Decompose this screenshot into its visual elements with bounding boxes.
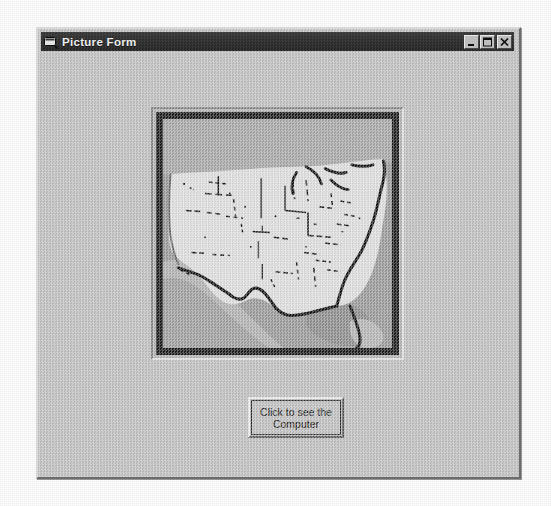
title-bar[interactable]: Picture Form xyxy=(41,32,514,51)
screenshot-page: Picture Form xyxy=(0,0,551,506)
close-button[interactable] xyxy=(497,35,512,49)
see-computer-button[interactable]: Click to see the Computer xyxy=(248,397,344,438)
picture-box[interactable]: Map of the United States xyxy=(151,107,404,360)
usa-map-image: Map of the United States xyxy=(163,119,392,348)
picture-box-frame: Map of the United States xyxy=(156,112,399,355)
see-computer-button-label: Click to see the Computer xyxy=(260,406,332,430)
minimize-button[interactable] xyxy=(464,35,479,49)
form-client-area: Map of the United States xyxy=(40,52,517,475)
maximize-button[interactable] xyxy=(480,35,495,49)
picture-form-window: Picture Form xyxy=(36,27,521,479)
vb-form-icon xyxy=(44,35,58,48)
window-title: Picture Form xyxy=(62,36,137,48)
